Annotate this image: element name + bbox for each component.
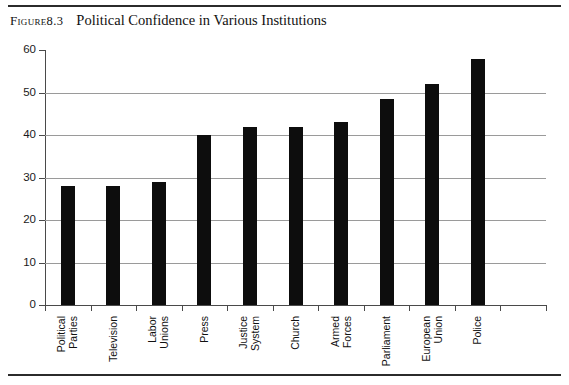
bar [106,186,120,305]
bar [380,99,394,305]
bar [471,59,485,305]
x-tick-mark [364,305,365,311]
y-tick-label-wrap-10: 10 [0,257,36,269]
y-tick-mark-50 [39,93,45,94]
x-tick-mark [273,305,274,311]
bar [243,127,257,305]
x-tick-mark [91,305,92,311]
y-axis-tick-label: 40 [6,129,36,140]
y-tick-label-wrap-40: 40 [0,129,36,141]
y-tick-mark-30 [39,178,45,179]
bar [425,84,439,305]
y-tick-mark-10 [39,263,45,264]
y-tick-mark-20 [39,220,45,221]
y-axis-tick-label: 10 [6,257,36,268]
bar [152,182,166,305]
y-axis-tick-label: 60 [6,44,36,55]
x-tick-mark [546,305,547,311]
x-tick-mark [318,305,319,311]
y-axis-tick-label: 30 [6,172,36,183]
bar [334,122,348,305]
y-tick-mark-40 [39,135,45,136]
x-tick-mark [455,305,456,311]
bar [61,186,75,305]
y-tick-mark-60 [39,50,45,51]
y-tick-label-wrap-50: 50 [0,87,36,99]
x-tick-mark [136,305,137,311]
y-axis-tick-label: 0 [6,299,36,310]
y-tick-label-wrap-30: 30 [0,172,36,184]
y-tick-label-wrap-0: 0 [0,299,36,311]
x-axis-line [45,305,546,306]
x-tick-mark [182,305,183,311]
y-tick-label-wrap-20: 20 [0,214,36,226]
y-axis-tick-label: 50 [6,87,36,98]
bottom-rule [8,374,561,376]
bar-chart: 0102030405060 PoliticalPartiesTelevision… [0,0,569,385]
x-tick-mark [45,305,46,311]
y-axis-tick-label: 20 [6,214,36,225]
y-tick-label-wrap-60: 60 [0,44,36,56]
x-tick-mark [409,305,410,311]
x-tick-mark [227,305,228,311]
figure-container: Figure8.3Political Confidence in Various… [0,0,569,385]
x-tick-mark [500,305,501,311]
bar [197,135,211,305]
bar [289,127,303,305]
